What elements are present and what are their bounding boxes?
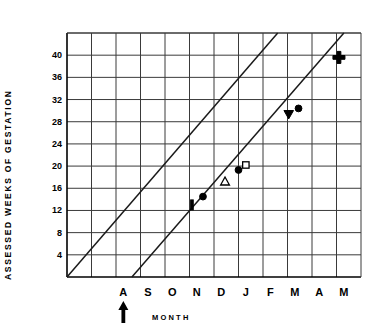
x-axis-ticks: ASONDJFMAM	[0, 0, 388, 328]
chart-figure: ASSESSED WEEKS OF GESTATION 481216202428…	[0, 0, 388, 328]
x-axis-title: MONTH	[152, 314, 191, 322]
x-tick-label: M	[329, 287, 359, 298]
